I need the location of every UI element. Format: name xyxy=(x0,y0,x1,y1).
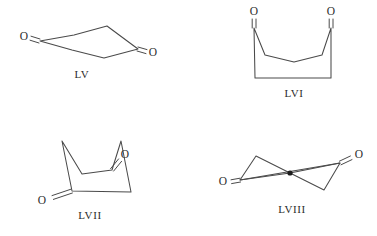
lvii-oxygen-label-left: O xyxy=(38,194,46,206)
structure-lvii: O O LVII xyxy=(38,141,131,221)
lvii-oxygen-label-right: O xyxy=(121,148,129,160)
structure-label-lvi: LVI xyxy=(284,87,303,99)
lvi-ring-skeleton xyxy=(254,28,331,78)
structure-label-lviii: LVIII xyxy=(278,203,306,215)
lviii-left-carbonyl-double-bond xyxy=(231,178,241,183)
structure-lv: O O LV xyxy=(20,26,157,80)
lviii-center-point-marker xyxy=(287,170,292,175)
lviii-right-carbonyl-double-bond xyxy=(339,156,352,165)
chemical-structures-figure: O O LV O O LVI O O LVII xyxy=(0,0,377,236)
lvi-oxygen-label-left: O xyxy=(250,5,258,17)
structure-lvi: O O LVI xyxy=(250,5,335,99)
structure-label-lvii: LVII xyxy=(78,209,101,221)
lv-oxygen-label-right: O xyxy=(149,46,157,58)
lviii-oxygen-label-left: O xyxy=(219,175,227,187)
lv-oxygen-label-left: O xyxy=(20,30,28,42)
lv-ring-skeleton xyxy=(40,26,138,58)
lv-right-carbonyl-double-bond xyxy=(137,47,147,54)
structure-label-lv: LV xyxy=(75,68,90,80)
lvi-right-carbonyl-double-bond xyxy=(329,19,333,28)
structure-lviii: O O LVIII xyxy=(219,148,363,215)
lviii-oxygen-label-right: O xyxy=(355,148,363,160)
lvi-oxygen-label-right: O xyxy=(327,5,335,17)
lvi-left-carbonyl-double-bond xyxy=(252,19,256,28)
lvii-lower-left-carbonyl-double-bond xyxy=(52,189,72,199)
lv-left-carbonyl-double-bond xyxy=(30,36,40,43)
